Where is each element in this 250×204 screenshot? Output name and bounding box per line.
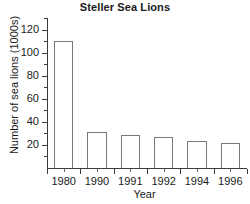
y-tick-label: 60: [0, 93, 39, 104]
bar: [54, 41, 73, 168]
y-tick-label: 120: [0, 24, 39, 35]
y-tick-label: 80: [0, 70, 39, 81]
bar: [87, 132, 106, 168]
x-tick-minor: [197, 169, 198, 172]
bar: [121, 135, 140, 168]
x-tick: [247, 169, 248, 174]
x-tick-label: 1992: [147, 175, 181, 187]
x-tick-label: 1990: [80, 175, 114, 187]
x-tick-minor: [130, 169, 131, 172]
bar: [187, 141, 206, 168]
x-tick: [214, 169, 215, 174]
x-tick-label: 1991: [113, 175, 147, 187]
x-tick-label: 1980: [47, 175, 81, 187]
x-tick: [47, 169, 48, 174]
chart-title: Steller Sea Lions: [0, 1, 250, 13]
chart-figure: Steller Sea Lions Number of sea lions (1…: [0, 0, 250, 204]
x-tick: [114, 169, 115, 174]
y-tick-label: 40: [0, 116, 39, 127]
plot-area: [47, 18, 247, 168]
x-tick-minor: [230, 169, 231, 172]
x-tick-minor: [164, 169, 165, 172]
bar: [221, 143, 240, 168]
x-tick-minor: [97, 169, 98, 172]
y-tick-label: 100: [0, 47, 39, 58]
x-tick: [180, 169, 181, 174]
x-tick: [80, 169, 81, 174]
x-tick-minor: [64, 169, 65, 172]
bar: [154, 137, 173, 168]
x-tick: [147, 169, 148, 174]
x-axis-label: Year: [42, 188, 247, 200]
x-tick-label: 1994: [180, 175, 214, 187]
x-tick-label: 1996: [213, 175, 247, 187]
y-tick-label: 20: [0, 139, 39, 150]
